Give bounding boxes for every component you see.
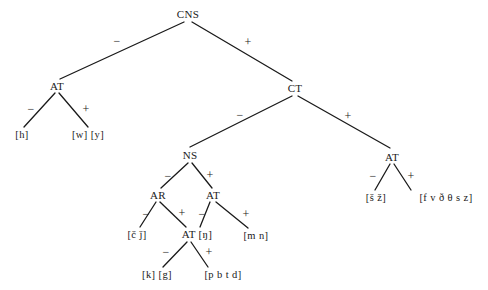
edge-sign-label: − bbox=[28, 103, 35, 115]
tree-edge bbox=[192, 22, 292, 81]
tree-leaf-leaf_pbtd: [p b t d] bbox=[204, 270, 241, 281]
edge-sign-label: − bbox=[114, 35, 121, 47]
edge-sign-label: − bbox=[370, 170, 377, 182]
tree-node-cns: CNS bbox=[177, 9, 199, 20]
edge-sign-label: − bbox=[143, 208, 150, 220]
edge-sign-label: + bbox=[243, 208, 250, 220]
tree-leaf-leaf_cj: [č ǰ] bbox=[127, 230, 146, 241]
edge-sign-label: + bbox=[408, 170, 415, 182]
tree-leaf-leaf_sz: [š ž] bbox=[366, 193, 386, 204]
edge-sign-label: + bbox=[345, 110, 352, 122]
tree-leaf-leaf_kg: [k] [g] bbox=[142, 270, 172, 281]
edge-sign-label: + bbox=[207, 169, 214, 181]
edge-sign-label: + bbox=[206, 246, 213, 258]
tree-node-ar: AR bbox=[150, 190, 166, 201]
tree-leaf-leaf_fvths: [f v ð θ s z] bbox=[419, 193, 472, 204]
tree-node-ct: CT bbox=[288, 83, 303, 94]
tree-leaf-leaf_wy: [w] [y] bbox=[72, 130, 104, 141]
tree-node-at_left: AT bbox=[50, 81, 64, 92]
edge-sign-label: − bbox=[237, 109, 244, 121]
tree-node-at_eng: AT [ŋ] bbox=[182, 229, 213, 240]
edge-sign-label: − bbox=[199, 208, 206, 220]
tree-node-ns: NS bbox=[183, 150, 198, 161]
tree-edge bbox=[60, 22, 184, 79]
edge-sign-label: + bbox=[245, 36, 252, 48]
edge-sign-label: + bbox=[179, 207, 186, 219]
edge-sign-label: − bbox=[165, 170, 172, 182]
tree-leaf-leaf_h: [h] bbox=[15, 130, 28, 141]
edge-sign-label: + bbox=[83, 103, 90, 115]
edge-sign-label: − bbox=[163, 246, 170, 258]
tree-node-at_mid: AT bbox=[206, 190, 220, 201]
feature-tree-diagram: −+−+−+−+−+−+−+−+CNSATCTNSATARATAT [ŋ][h]… bbox=[0, 0, 488, 290]
tree-node-at_right: AT bbox=[385, 152, 399, 163]
tree-leaf-leaf_mn: [m n] bbox=[243, 231, 268, 242]
tree-edge bbox=[375, 164, 390, 190]
